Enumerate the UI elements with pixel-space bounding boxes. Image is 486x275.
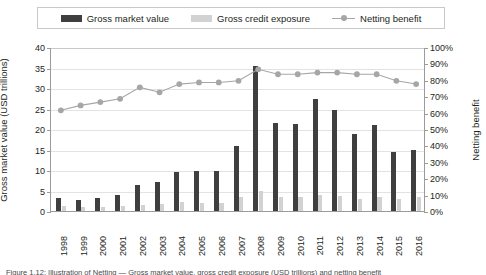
y-axis-right-tick [424,130,428,131]
plot-frame: 1998: 62%1999: 65%2000: 67%2001: 69%2002… [50,48,425,212]
y-axis-right-tick [424,114,428,115]
netting-benefit-point: 2015: 80% [393,78,399,84]
legend-item-gross-credit-exposure: Gross credit exposure [191,13,310,24]
y-axis-left-tick [47,171,51,172]
legend-swatch-netting-benefit [332,14,355,22]
legend-label-gross-market-value: Gross market value [87,13,169,24]
y-axis-right-tick-label: 10% [430,191,448,200]
y-axis-right-tick-label: 40% [430,142,448,151]
netting-benefit-point: 2001: 69% [117,96,123,102]
netting-benefit-point: 2014: 84% [374,71,380,77]
y-axis-left-tick-label: 10 [35,167,45,176]
figure-container: Gross market value Gross credit exposure… [0,0,486,275]
y-axis-left-tick [47,212,51,213]
chart-legend: Gross market value Gross credit exposure… [37,7,445,29]
netting-benefit-point: 2011: 85% [315,70,321,76]
y-axis-right-tick-label: 50% [430,126,448,135]
figure-caption: Figure 1.12: Illustration of Netting — G… [6,268,480,275]
y-axis-left-tick-label: 35 [35,64,45,73]
netting-benefit-point: 2008: 87% [255,66,261,72]
y-axis-right-tick-label: 100% [430,44,453,53]
y-axis-left-tick [47,192,51,193]
y-axis-right-tick-label: 80% [430,76,448,85]
y-axis-right-tick [424,97,428,98]
y-axis-left-tick [47,151,51,152]
netting-benefit-point: 2012: 85% [334,70,340,76]
y-axis-right-tick [424,64,428,65]
netting-benefit-point: 1999: 65% [78,103,84,109]
netting-benefit-point: 2002: 76% [137,84,143,90]
y-axis-left-tick-label: 30 [35,85,45,94]
netting-benefit-point: 2013: 84% [354,71,360,77]
y-axis-right-tick [424,212,428,213]
netting-benefit-point: 2009: 84% [275,71,281,77]
netting-benefit-point: 2007: 80% [236,78,242,84]
netting-benefit-point: 2004: 78% [176,81,182,87]
y-axis-right-tick-label: 0% [430,208,443,217]
netting-benefit-point: 2005: 79% [196,80,202,86]
y-axis-right-title: Netting benefit [470,48,484,212]
y-axis-left-tick [47,130,51,131]
legend-label-netting-benefit: Netting benefit [360,13,421,24]
y-axis-right-tick [424,81,428,82]
y-axis-left-tick-label: 15 [35,146,45,155]
y-axis-right-tick-label: 30% [430,158,448,167]
y-axis-left-tick [47,69,51,70]
plot-area: 1998: 62%1999: 65%2000: 67%2001: 69%2002… [51,48,424,211]
netting-benefit-point: 2016: 78% [413,81,419,87]
y-axis-left-tick [47,89,51,90]
y-axis-left-tick [47,110,51,111]
legend-swatch-gross-market-value [61,15,82,22]
legend-item-gross-market-value: Gross market value [61,13,169,24]
netting-benefit-point: 2000: 67% [97,99,103,105]
y-axis-right-tick-label: 70% [430,93,448,102]
y-axis-right-tick [424,163,428,164]
y-axis-left-tick-label: 20 [35,126,45,135]
netting-benefit-point: 2003: 73% [157,89,163,95]
y-axis-left-tick-label: 25 [35,105,45,114]
y-axis-left-tick-label: 40 [35,44,45,53]
y-axis-left-tick-label: 0 [40,208,45,217]
y-axis-right-tick-label: 20% [430,175,448,184]
y-axis-left-tick [47,48,51,49]
legend-swatch-gross-credit-exposure [191,15,212,22]
y-axis-right-tick [424,146,428,147]
legend-item-netting-benefit: Netting benefit [332,13,421,24]
y-axis-right-tick-label: 60% [430,109,448,118]
y-axis-left-tick-label: 5 [40,187,45,196]
y-axis-right-tick [424,48,428,49]
netting-benefit-point: 2010: 84% [295,71,301,77]
netting-benefit-point: 1998: 62% [58,107,64,113]
y-axis-left-title: Gross market value (USD trillions) [0,48,12,212]
y-axis-right-tick-label: 90% [430,60,448,69]
y-axis-right-tick [424,179,428,180]
y-axis-right-tick [424,196,428,197]
netting-benefit-point: 2006: 79% [216,80,222,86]
netting-benefit-line: 1998: 62%1999: 65%2000: 67%2001: 69%2002… [51,48,426,212]
legend-label-gross-credit-exposure: Gross credit exposure [217,13,310,24]
